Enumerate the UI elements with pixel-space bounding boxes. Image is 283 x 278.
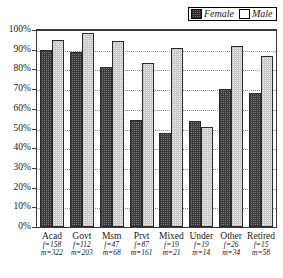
bar-male	[201, 127, 213, 227]
legend-entry-male: Male	[239, 9, 273, 19]
x-axis-group-label: Msmf=47m=68	[97, 231, 127, 257]
y-axis-tick-label: 50%	[14, 124, 31, 134]
legend-swatch-female-icon	[191, 9, 202, 19]
bar-female	[130, 120, 142, 227]
bar-male	[231, 46, 243, 227]
bar-group	[67, 30, 97, 227]
bar-male	[112, 41, 124, 227]
y-axis-tick-label: 60%	[14, 104, 31, 114]
bar-male	[261, 56, 273, 227]
y-axis-tick-label: 20%	[14, 183, 31, 193]
x-axis-male-count: m=34	[216, 249, 246, 257]
bar-female	[249, 93, 261, 227]
bar-female	[189, 121, 201, 227]
bar-male	[82, 33, 94, 227]
y-axis-tick-label: 70%	[14, 84, 31, 94]
bar-female	[100, 67, 112, 227]
y-axis-tick-label: 80%	[14, 65, 31, 75]
bar-group	[246, 30, 276, 227]
x-axis: Acadf=158m=322Govtf=112m=203Msmf=47m=68P…	[37, 231, 276, 257]
bar-male	[142, 63, 154, 227]
y-axis-tick-label: 90%	[14, 45, 31, 55]
x-axis-group-label: Prvtf=87m=161	[127, 231, 157, 257]
x-axis-male-count: m=68	[97, 249, 127, 257]
x-axis-group-label: Otherf=26m=34	[216, 231, 246, 257]
y-axis-tick-label: 30%	[14, 163, 31, 173]
bar-group	[157, 30, 187, 227]
legend-swatch-male-icon	[239, 9, 250, 19]
bar-group	[216, 30, 246, 227]
x-axis-male-count: m=14	[186, 249, 216, 257]
bar-group	[97, 30, 127, 227]
bar-group	[186, 30, 216, 227]
x-axis-group-label: Acadf=158m=322	[37, 231, 67, 257]
x-axis-male-count: m=21	[157, 249, 187, 257]
x-axis-group-label: Retiredf=15m=58	[246, 231, 276, 257]
bar-female	[40, 50, 52, 227]
y-axis-tick-label: 0%	[18, 222, 31, 232]
x-axis-group-label: Mixedf=19m=21	[157, 231, 187, 257]
x-axis-male-count: m=203	[67, 249, 97, 257]
bar-group	[37, 30, 67, 227]
x-axis-group-label: Govtf=112m=203	[67, 231, 97, 257]
y-axis: 100%90%80%70%60%50%40%30%20%10%0%	[0, 29, 36, 228]
bar-male	[171, 48, 183, 227]
bar-female	[219, 89, 231, 227]
y-axis-tick-label: 40%	[14, 143, 31, 153]
x-axis-male-count: m=322	[37, 249, 67, 257]
chart-legend: Female Male	[188, 7, 277, 21]
legend-entry-female: Female	[191, 9, 234, 19]
legend-label-female: Female	[204, 9, 234, 19]
bar-female	[159, 133, 171, 227]
x-axis-male-count: m=58	[246, 249, 276, 257]
bar-chart: Female Male 100%90%80%70%60%50%40%30%20%…	[0, 0, 283, 278]
legend-label-male: Male	[252, 9, 273, 19]
y-axis-tick-label: 100%	[9, 25, 31, 35]
bar-group	[127, 30, 157, 227]
x-axis-group-label: Underf=19m=14	[186, 231, 216, 257]
bar-male	[52, 40, 64, 227]
bars-container	[37, 30, 276, 227]
x-axis-male-count: m=161	[127, 249, 157, 257]
bar-female	[70, 52, 82, 227]
y-axis-tick-label: 10%	[14, 203, 31, 213]
